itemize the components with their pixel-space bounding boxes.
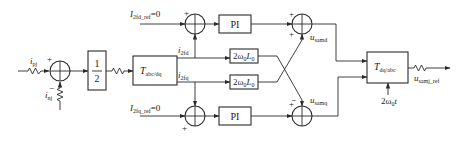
- half-denominator: 2: [95, 73, 100, 84]
- sum-junction-d: [185, 14, 205, 34]
- label-i2fq: i2fq: [178, 70, 189, 81]
- sum-junction-input: [50, 61, 70, 81]
- label-usamd: usamd: [310, 32, 327, 43]
- sum-junction-q: [185, 106, 205, 126]
- pi-d-label: PI: [231, 19, 240, 30]
- input-ipj-wire: [18, 68, 49, 74]
- sign-plus: +: [289, 9, 294, 19]
- label-i2fd: i2fd: [178, 45, 189, 56]
- sum-junction-usamq: [292, 106, 312, 126]
- wire-output: [408, 65, 450, 71]
- input-inj-wire: [57, 82, 63, 110]
- sign-plus: +: [47, 54, 52, 64]
- gain-half-block: [88, 51, 106, 90]
- label-usamq: usamq: [310, 95, 327, 106]
- label-ipj: ipj: [30, 56, 38, 67]
- label-output: usamj_ref: [414, 73, 440, 84]
- control-block-diagram: ipj inj + − 1 2 Tabc/dq i2fd i2fq I2fd_r…: [0, 0, 467, 141]
- label-i2fq-ref: I2fq_ref=0: [129, 103, 161, 114]
- sum-junction-usamd: [292, 14, 312, 34]
- sign-plus: +: [289, 29, 294, 39]
- half-numerator: 1: [95, 58, 100, 69]
- sign-minus: −: [291, 95, 296, 105]
- sign-plus: +: [182, 123, 187, 133]
- wire-cross-q-to-d-sum: [258, 34, 302, 82]
- label-i2fd-ref: I2fd_ref=0: [129, 9, 161, 20]
- pi-q-label: PI: [231, 111, 240, 122]
- label-theta: 2ω0t: [381, 96, 397, 107]
- wire-usamq-to-tdqabc: [312, 77, 367, 116]
- sign-minus: −: [49, 83, 54, 93]
- wire-half-to-tabcdq: [106, 68, 133, 74]
